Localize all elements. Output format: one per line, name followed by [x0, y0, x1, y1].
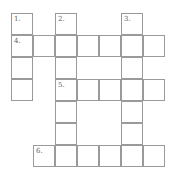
crossword-cell[interactable]: [11, 57, 33, 79]
crossword-cell[interactable]: [121, 35, 143, 57]
crossword-cell[interactable]: 4.: [11, 35, 33, 57]
crossword-cell[interactable]: [99, 35, 121, 57]
crossword-cell[interactable]: [77, 35, 99, 57]
crossword-cell[interactable]: [11, 79, 33, 101]
crossword-cell[interactable]: 5.: [55, 79, 77, 101]
clue-number: 1.: [14, 15, 21, 23]
crossword-cell[interactable]: [55, 57, 77, 79]
crossword-cell[interactable]: [143, 35, 165, 57]
crossword-cell[interactable]: [121, 123, 143, 145]
crossword-grid: 1.2.3.4.5.6.: [0, 0, 178, 173]
clue-number: 2.: [58, 15, 65, 23]
crossword-cell[interactable]: [99, 145, 121, 167]
crossword-cell[interactable]: 6.: [33, 145, 55, 167]
crossword-cell[interactable]: 3.: [121, 13, 143, 35]
crossword-cell[interactable]: [55, 145, 77, 167]
clue-number: 3.: [124, 15, 131, 23]
crossword-cell[interactable]: [33, 35, 55, 57]
crossword-cell[interactable]: [121, 79, 143, 101]
crossword-cell[interactable]: [99, 79, 121, 101]
crossword-cell[interactable]: [55, 101, 77, 123]
crossword-cell[interactable]: [121, 57, 143, 79]
crossword-cell[interactable]: [121, 101, 143, 123]
crossword-cell[interactable]: [121, 145, 143, 167]
crossword-cell[interactable]: [143, 79, 165, 101]
crossword-cell[interactable]: 1.: [11, 13, 33, 35]
crossword-cell[interactable]: [143, 145, 165, 167]
crossword-cell[interactable]: [55, 35, 77, 57]
crossword-cell[interactable]: [55, 123, 77, 145]
crossword-cell[interactable]: [77, 145, 99, 167]
clue-number: 6.: [36, 147, 43, 155]
crossword-cell[interactable]: 2.: [55, 13, 77, 35]
clue-number: 4.: [14, 37, 21, 45]
crossword-cell[interactable]: [77, 79, 99, 101]
clue-number: 5.: [58, 81, 65, 89]
